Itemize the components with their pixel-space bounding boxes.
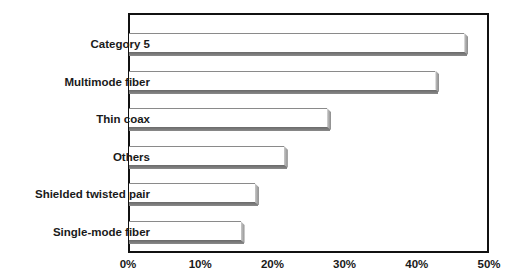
bar-face [129, 146, 284, 165]
bar-side [241, 221, 245, 243]
bar-face [129, 33, 464, 52]
bar-side [464, 33, 468, 55]
bar-shadow [129, 127, 330, 131]
bar-side [284, 146, 288, 168]
bar-face [129, 71, 435, 90]
bar [129, 146, 288, 165]
x-tick-label: 50% [477, 258, 500, 270]
bar [129, 71, 439, 90]
bar-side [435, 71, 439, 93]
x-tick-label: 10% [189, 258, 212, 270]
category-label: Others [113, 150, 150, 164]
bar-shadow [129, 202, 258, 206]
bar [129, 108, 331, 127]
x-tick-label: 20% [261, 258, 284, 270]
x-tick-label: 30% [333, 258, 356, 270]
bar-shadow [129, 52, 467, 56]
category-label: Thin coax [96, 112, 150, 126]
bar-shadow [129, 165, 287, 169]
x-tick-label: 40% [405, 258, 428, 270]
bar [129, 33, 468, 52]
bar-shadow [129, 90, 438, 94]
category-label: Shielded twisted pair [35, 187, 150, 201]
bar-shadow [129, 240, 244, 244]
bar-side [255, 183, 259, 205]
bar-chart: Category 5Multimode fiberThin coaxOthers… [0, 0, 508, 277]
bar-face [129, 108, 327, 127]
bar-side [327, 108, 331, 130]
category-label: Multimode fiber [64, 75, 150, 89]
category-label: Category 5 [91, 37, 150, 51]
category-label: Single-mode fiber [53, 225, 150, 239]
x-tick-label: 0% [120, 258, 137, 270]
